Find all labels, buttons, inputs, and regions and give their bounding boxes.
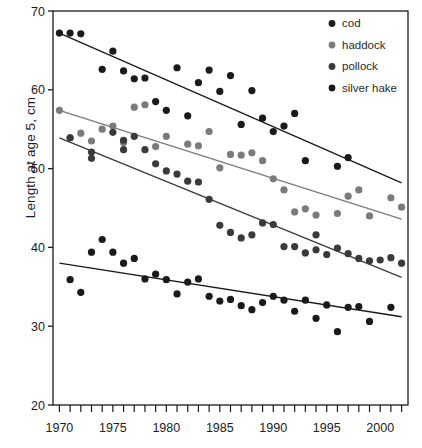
data-point-haddock [152,143,159,150]
data-point-pollock [280,243,287,250]
data-point-pollock [355,255,362,262]
data-point-silver-hake [387,304,394,311]
data-point-silver-hake [152,271,159,278]
x-axis-tick-label: 1975 [99,421,127,435]
data-point-silver-hake [141,275,148,282]
data-point-cod [152,98,159,105]
data-point-pollock [345,250,352,257]
data-point-pollock [323,251,330,258]
data-point-pollock [88,148,95,155]
data-point-haddock [77,130,84,137]
data-point-pollock [67,134,74,141]
data-point-cod [173,64,180,71]
x-axis-tick-label: 2000 [366,421,394,435]
x-axis-tick-label: 1980 [152,421,180,435]
data-point-cod [163,107,170,114]
data-point-silver-hake [173,290,180,297]
data-point-haddock [355,186,362,193]
data-point-cod [56,29,63,36]
data-point-cod [131,75,138,82]
y-axis-tick-label: 20 [31,399,45,413]
data-point-pollock [302,249,309,256]
data-point-pollock [109,129,116,136]
data-point-pollock [259,219,266,226]
data-point-silver-hake [195,275,202,282]
data-point-pollock [248,231,255,238]
data-point-pollock [152,160,159,167]
data-point-haddock [88,137,95,144]
data-point-cod [99,66,106,73]
data-point-cod [195,79,202,86]
data-point-silver-hake [120,260,127,267]
data-point-cod [334,163,341,170]
data-point-haddock [280,186,287,193]
data-point-silver-hake [99,236,106,243]
data-point-pollock [377,256,384,263]
data-point-silver-hake [248,306,255,313]
data-point-haddock [131,104,138,111]
x-axis-tick-label: 1970 [46,421,74,435]
data-point-pollock [206,196,213,203]
y-axis-tick-label: 40 [31,241,45,255]
data-point-pollock [387,254,394,261]
data-point-pollock [291,243,298,250]
y-axis-tick-label: 50 [31,162,45,176]
data-point-haddock [334,210,341,217]
legend-marker-pollock [329,63,336,70]
data-point-haddock [109,122,116,129]
data-point-haddock [312,211,319,218]
data-point-cod [345,154,352,161]
data-point-silver-hake [77,289,84,296]
data-point-pollock [184,178,191,185]
data-point-pollock [312,231,319,238]
data-point-haddock [227,151,234,158]
data-point-cod [216,88,223,95]
data-point-silver-hake [88,249,95,256]
data-point-silver-hake [323,301,330,308]
data-point-cod [270,128,277,135]
data-point-haddock [238,152,245,159]
data-point-silver-hake [184,278,191,285]
scatter-plot: 2030405060701970197519801985199019952000… [0,0,422,448]
data-point-haddock [216,164,223,171]
data-point-silver-hake [131,255,138,262]
legend-label-pollock: pollock [342,60,378,72]
data-point-cod [238,121,245,128]
data-point-haddock [56,107,63,114]
data-point-silver-hake [238,302,245,309]
data-point-silver-hake [334,328,341,335]
data-point-cod [291,110,298,117]
y-axis-tick-label: 30 [31,320,45,334]
data-point-pollock [88,155,95,162]
data-point-silver-hake [109,249,116,256]
data-point-pollock [141,146,148,153]
data-point-pollock [120,146,127,153]
data-point-pollock [366,257,373,264]
x-axis-tick-label: 1985 [206,421,234,435]
data-point-haddock [195,142,202,149]
legend-marker-haddock [329,42,336,49]
data-point-haddock [206,128,213,135]
data-point-silver-hake [312,315,319,322]
data-point-pollock [163,167,170,174]
data-point-pollock [238,234,245,241]
x-axis-tick-label: 1990 [259,421,287,435]
data-point-pollock [195,178,202,185]
data-point-cod [302,157,309,164]
data-point-silver-hake [291,308,298,315]
data-point-cod [259,115,266,122]
data-point-silver-hake [216,297,223,304]
legend-marker-cod [329,20,336,27]
data-point-silver-hake [227,296,234,303]
legend-label-silver-hake: silver hake [342,82,397,94]
data-point-silver-hake [302,297,309,304]
data-point-silver-hake [355,303,362,310]
data-point-haddock [141,101,148,108]
data-point-pollock [131,133,138,140]
data-point-cod [280,122,287,129]
data-point-haddock [270,175,277,182]
data-point-cod [120,67,127,74]
data-point-silver-hake [163,276,170,283]
data-point-haddock [366,212,373,219]
data-point-pollock [216,222,223,229]
